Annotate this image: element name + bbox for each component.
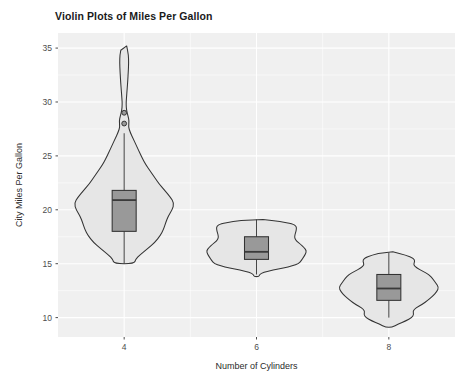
plot-area: 101520253035468 Number of CylindersCity … — [0, 0, 463, 392]
y-axis-tick-label: 35 — [43, 43, 53, 53]
x-axis-tick-label: 8 — [386, 342, 391, 352]
y-axis-tick-label: 20 — [43, 205, 53, 215]
violin-chart: Violin Plots of Miles Per Gallon 1015202… — [0, 0, 463, 392]
y-axis-tick-label: 30 — [43, 97, 53, 107]
y-axis-tick-label: 10 — [43, 313, 53, 323]
y-axis-title: City Miles Per Gallon — [14, 143, 24, 227]
y-axis-tick-label: 15 — [43, 259, 53, 269]
x-axis-tick-label: 4 — [122, 342, 127, 352]
x-axis-tick-label: 6 — [254, 342, 259, 352]
y-axis-tick-label: 25 — [43, 151, 53, 161]
x-axis-title: Number of Cylinders — [215, 361, 298, 371]
